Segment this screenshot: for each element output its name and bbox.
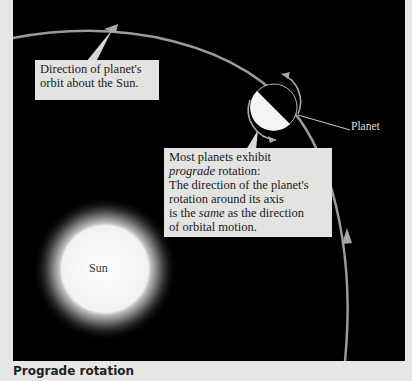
prograde-line: The direction of the planet's [169, 178, 327, 192]
label-pointer [246, 130, 258, 150]
orbit-direction-text: Direction of planet's orbit about the Su… [40, 62, 142, 90]
prograde-text: rotation: [215, 164, 260, 178]
figure-caption: Prograde rotation [13, 364, 134, 378]
planet-label: Planet [351, 120, 380, 132]
label-pointer [86, 30, 112, 62]
prograde-text: as the direction [225, 206, 305, 220]
orbit-direction-label: Direction of planet's orbit about the Su… [35, 60, 159, 100]
prograde-line: is the same as the direction [169, 206, 327, 220]
prograde-text: is the [169, 206, 199, 220]
prograde-term: prograde [169, 164, 215, 178]
prograde-line: Most planets exhibit [169, 150, 327, 164]
sun-label: Sun [89, 261, 108, 276]
prograde-explanation-label: Most planets exhibit prograde rotation: … [164, 148, 332, 237]
prograde-line: of orbital motion. [169, 220, 327, 234]
prograde-line: rotation around its axis [169, 192, 327, 206]
orbit-arrow-icon [342, 228, 352, 244]
prograde-line: prograde rotation: [169, 164, 327, 178]
same-term: same [199, 206, 225, 220]
